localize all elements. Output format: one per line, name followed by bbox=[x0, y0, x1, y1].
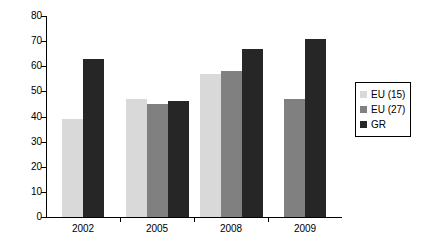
bar bbox=[83, 59, 104, 217]
x-axis-category-label: 2005 bbox=[120, 223, 194, 234]
bar bbox=[242, 49, 263, 217]
x-axis-category-label: 2008 bbox=[194, 223, 268, 234]
plot-area: 01020304050607080 2002200520082009 bbox=[46, 16, 342, 217]
bar-chart: 01020304050607080 2002200520082009 EU (1… bbox=[0, 0, 425, 251]
legend-item-label: EU (27) bbox=[371, 102, 405, 117]
y-tick-label: 10 bbox=[31, 185, 42, 198]
y-tick-label: 20 bbox=[31, 160, 42, 173]
bar-group-bars bbox=[120, 16, 194, 217]
bar bbox=[221, 71, 242, 217]
legend-swatch-icon bbox=[360, 91, 367, 98]
bar bbox=[126, 99, 147, 217]
chart-legend: EU (15)EU (27)GR bbox=[355, 82, 411, 137]
x-tick-mark bbox=[120, 217, 121, 222]
legend-item: EU (27) bbox=[360, 102, 405, 117]
bar bbox=[168, 101, 189, 217]
y-tick-label: 80 bbox=[31, 9, 42, 22]
bar-group-bars bbox=[268, 16, 342, 217]
legend-swatch-icon bbox=[360, 106, 367, 113]
y-tick-label: 70 bbox=[31, 34, 42, 47]
bar-group-bars bbox=[46, 16, 120, 217]
y-tick-label: 30 bbox=[31, 135, 42, 148]
bar-group: 2009 bbox=[268, 16, 342, 217]
bar bbox=[62, 119, 83, 217]
y-tick-label: 60 bbox=[31, 59, 42, 72]
bar bbox=[284, 99, 305, 217]
x-axis-category-label: 2009 bbox=[268, 223, 342, 234]
legend-item-label: GR bbox=[371, 117, 386, 132]
x-axis-category-label: 2002 bbox=[46, 223, 120, 234]
legend-swatch-icon bbox=[360, 121, 367, 128]
legend-item-label: EU (15) bbox=[371, 87, 405, 102]
bar-group-bars bbox=[194, 16, 268, 217]
y-tick-label: 50 bbox=[31, 84, 42, 97]
bar bbox=[200, 74, 221, 217]
bar bbox=[305, 39, 326, 217]
y-tick-label: 40 bbox=[31, 110, 42, 123]
legend-item: EU (15) bbox=[360, 87, 405, 102]
bar-group: 2005 bbox=[120, 16, 194, 217]
legend-item: GR bbox=[360, 117, 405, 132]
y-tick-label: 0 bbox=[36, 210, 42, 223]
x-tick-mark bbox=[268, 217, 269, 222]
bar-group: 2008 bbox=[194, 16, 268, 217]
bar bbox=[147, 104, 168, 217]
x-tick-mark bbox=[194, 217, 195, 222]
bar-group: 2002 bbox=[46, 16, 120, 217]
